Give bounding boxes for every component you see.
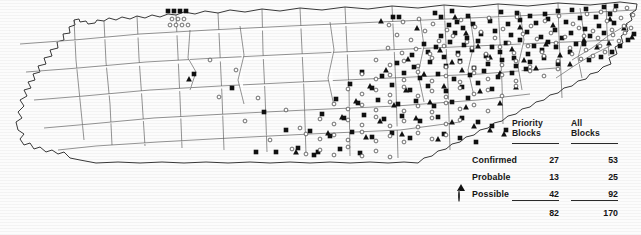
marker-possible — [493, 36, 497, 40]
marker-possible — [374, 58, 378, 62]
marker-confirmed — [528, 60, 533, 65]
marker-possible — [556, 67, 560, 71]
marker-confirmed — [498, 50, 503, 55]
marker-confirmed — [588, 34, 593, 39]
marker-confirmed — [608, 12, 613, 17]
marker-confirmed — [476, 81, 481, 86]
marker-possible — [501, 27, 505, 31]
marker-confirmed — [350, 130, 355, 135]
marker-possible — [374, 108, 378, 112]
marker-confirmed — [618, 44, 623, 49]
marker-possible — [515, 15, 519, 19]
marker-possible — [526, 44, 530, 48]
marker-confirmed — [602, 31, 607, 36]
marker-possible — [374, 115, 378, 119]
marker-possible — [500, 94, 504, 98]
marker-probable — [441, 83, 447, 88]
column-header-all-line1: All — [571, 118, 617, 128]
marker-probable — [435, 136, 441, 141]
marker-possible — [542, 54, 546, 58]
marker-confirmed — [534, 21, 539, 26]
marker-possible — [472, 103, 476, 107]
marker-confirmed — [515, 11, 520, 16]
marker-possible — [346, 107, 350, 111]
marker-possible — [472, 66, 476, 70]
marker-possible — [346, 145, 350, 149]
marker-possible — [388, 100, 392, 104]
marker-confirmed — [447, 23, 452, 28]
marker-possible — [596, 36, 600, 40]
marker-confirmed — [442, 55, 447, 60]
marker-probable — [378, 18, 384, 23]
marker-possible — [458, 107, 462, 111]
marker-confirmed — [468, 73, 473, 78]
marker-possible — [571, 22, 575, 26]
marker-possible — [174, 23, 178, 27]
marker-possible — [268, 138, 272, 142]
marker-confirmed — [574, 42, 579, 47]
marker-possible — [256, 96, 260, 100]
marker-confirmed — [594, 15, 599, 20]
marker-possible — [388, 124, 392, 128]
marker-possible — [579, 57, 583, 61]
marker-confirmed — [524, 67, 529, 72]
marker-possible — [603, 50, 607, 54]
marker-confirmed — [476, 39, 481, 44]
marker-possible — [386, 46, 390, 50]
marker-possible — [610, 28, 614, 32]
marker-possible — [180, 23, 184, 27]
marker-possible — [625, 6, 629, 10]
marker-possible — [414, 47, 418, 51]
marker-confirmed — [414, 99, 419, 104]
marker-possible — [416, 64, 420, 68]
filled-triangle-icon — [457, 174, 466, 183]
marker-possible — [360, 123, 364, 127]
value-possible-all: 92 — [571, 189, 618, 199]
marker-possible — [332, 153, 336, 157]
marker-confirmed — [506, 22, 511, 27]
marker-confirmed — [380, 74, 385, 79]
marker-possible — [458, 60, 462, 64]
marker-possible — [402, 59, 406, 63]
marker-possible — [400, 51, 404, 55]
marker-possible — [428, 52, 432, 56]
marker-confirmed — [499, 10, 504, 15]
value-possible-priority: 42 — [512, 189, 559, 199]
total-rule-priority — [512, 200, 559, 201]
total-rule-all — [571, 200, 618, 201]
marker-confirmed — [450, 100, 455, 105]
marker-confirmed — [433, 11, 438, 16]
figure-root: Priority Blocks All Blocks Confirmed 27 … — [0, 0, 641, 235]
marker-possible — [360, 92, 364, 96]
marker-confirmed — [500, 58, 505, 63]
column-header-all-line2: Blocks — [571, 128, 617, 138]
marker-possible — [472, 92, 476, 96]
marker-confirmed — [509, 33, 514, 38]
marker-possible — [360, 72, 364, 76]
marker-possible — [417, 17, 421, 21]
marker-possible — [388, 93, 392, 97]
marker-confirmed — [564, 20, 569, 25]
marker-possible — [182, 17, 186, 21]
marker-possible — [444, 133, 448, 137]
marker-possible — [416, 104, 420, 108]
value-total-priority: 82 — [512, 208, 559, 218]
column-header-all: All Blocks — [571, 118, 617, 138]
legend-label-confirmed: Confirmed — [472, 155, 517, 165]
marker-possible — [549, 31, 553, 35]
marker-confirmed — [382, 117, 387, 122]
marker-confirmed — [514, 64, 519, 69]
marker-possible — [402, 119, 406, 123]
marker-possible — [284, 108, 288, 112]
marker-possible — [416, 131, 420, 135]
marker-possible — [409, 38, 413, 42]
marker-probable — [452, 14, 458, 19]
marker-confirmed — [370, 135, 375, 140]
marker-confirmed — [570, 8, 575, 13]
marker-confirmed — [493, 29, 498, 34]
marker-possible — [430, 89, 434, 93]
marker-probable — [399, 131, 405, 136]
marker-probable — [413, 115, 419, 120]
marker-possible — [486, 88, 490, 92]
marker-confirmed — [439, 15, 444, 20]
